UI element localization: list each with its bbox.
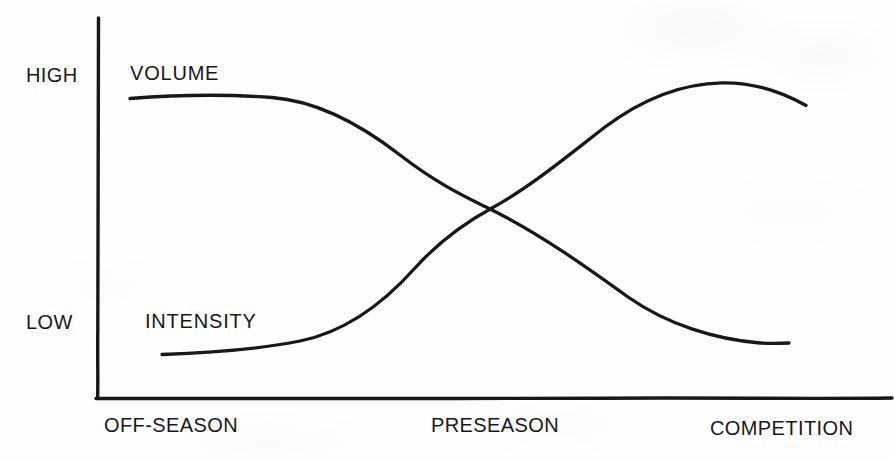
intensity-curve [162,83,806,355]
x-tick-label-competition: COMPETITION [710,417,853,440]
y-axis-line [98,18,99,398]
volume-curve [130,95,789,343]
x-tick-label-off-season: OFF-SEASON [104,414,238,437]
series-label-intensity: INTENSITY [145,310,257,333]
series-label-volume: VOLUME [130,62,219,85]
chart-figure: HIGH LOW OFF-SEASON PRESEASON COMPETITIO… [0,0,894,461]
x-axis-line [96,398,892,399]
y-tick-label-high: HIGH [26,64,78,87]
x-tick-label-preseason: PRESEASON [431,414,559,437]
y-tick-label-low: LOW [26,311,73,334]
